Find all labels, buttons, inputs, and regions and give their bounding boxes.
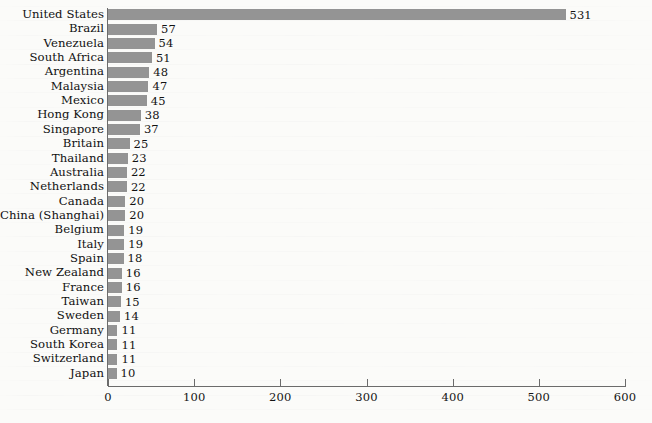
bar	[108, 210, 125, 221]
category-label: Malaysia	[0, 79, 104, 93]
bar-value-label: 16	[126, 280, 141, 294]
category-label-wrap: Australia	[0, 166, 104, 180]
x-axis-tick-label: 400	[441, 390, 464, 404]
bar	[108, 181, 127, 192]
bar-row: Spain18	[108, 252, 625, 266]
bar-value-label: 22	[131, 165, 146, 179]
bar-value-label: 57	[161, 22, 176, 36]
bar-value-label: 22	[131, 180, 146, 194]
bar-value-label: 14	[124, 309, 139, 323]
bar-value-label: 37	[144, 122, 159, 136]
bar-row: Hong Kong38	[108, 108, 625, 122]
category-label-wrap: China (Shanghai)	[0, 209, 104, 223]
bar	[108, 368, 117, 379]
bar-value-label: 20	[129, 208, 144, 222]
bar	[108, 311, 120, 322]
category-label-wrap: Canada	[0, 195, 104, 209]
bar-value-label: 11	[121, 338, 136, 352]
bar	[108, 24, 157, 35]
bar	[108, 296, 121, 307]
category-label-wrap: Argentina	[0, 65, 104, 79]
bar-value-label: 15	[125, 295, 140, 309]
bar-row: Sweden14	[108, 309, 625, 323]
bar	[108, 268, 122, 279]
category-label: South Africa	[0, 50, 104, 64]
category-label: Japan	[0, 366, 104, 380]
bar-value-label: 19	[128, 237, 143, 251]
x-axis-tick-label: 500	[528, 390, 551, 404]
bar-value-label: 38	[145, 108, 160, 122]
bar-row: Mexico45	[108, 94, 625, 108]
bar	[108, 124, 140, 135]
bar	[108, 81, 148, 92]
category-label-wrap: New Zealand	[0, 266, 104, 280]
bar-value-label: 47	[152, 79, 167, 93]
bar-chart: United States531Brazil57Venezuela54South…	[0, 0, 652, 423]
x-axis-tick-mark	[453, 379, 454, 387]
category-label: New Zealand	[0, 265, 104, 279]
bar-value-label: 25	[134, 137, 149, 151]
bar-row: Italy19	[108, 238, 625, 252]
category-label-wrap: Malaysia	[0, 80, 104, 94]
bar	[108, 239, 124, 250]
bar-value-label: 45	[151, 94, 166, 108]
bar-value-label: 531	[570, 8, 592, 22]
x-axis-tick-mark	[539, 379, 540, 387]
bar-row: France16	[108, 281, 625, 295]
bar-row: Taiwan15	[108, 295, 625, 309]
x-axis-tick-mark	[367, 379, 368, 387]
category-label-wrap: Thailand	[0, 152, 104, 166]
category-label-wrap: Italy	[0, 238, 104, 252]
x-axis-tick-label: 100	[183, 390, 206, 404]
category-label-wrap: Japan	[0, 367, 104, 381]
bar-row: Thailand23	[108, 152, 625, 166]
bar-row: Germany11	[108, 324, 625, 338]
category-label: Netherlands	[0, 179, 104, 193]
category-label-wrap: Venezuela	[0, 37, 104, 51]
category-label: Argentina	[0, 64, 104, 78]
bar	[108, 138, 130, 149]
bar	[108, 339, 117, 350]
category-label: Switzerland	[0, 351, 104, 365]
category-label-wrap: Singapore	[0, 123, 104, 137]
bar-row: Belgium19	[108, 223, 625, 237]
bar-row: Netherlands22	[108, 180, 625, 194]
bar-value-label: 11	[121, 323, 136, 337]
bar-row: Singapore37	[108, 123, 625, 137]
x-axis-tick-label: 600	[614, 390, 637, 404]
bar-row: Malaysia47	[108, 80, 625, 94]
category-label-wrap: Sweden	[0, 309, 104, 323]
category-label-wrap: Hong Kong	[0, 108, 104, 122]
category-label-wrap: Taiwan	[0, 295, 104, 309]
bar	[108, 38, 155, 49]
bar-value-label: 11	[121, 352, 136, 366]
bar-value-label: 23	[132, 151, 147, 165]
category-label-wrap: Britain	[0, 137, 104, 151]
category-label: Belgium	[0, 222, 104, 236]
category-label-wrap: Germany	[0, 324, 104, 338]
x-axis-tick-label: 200	[269, 390, 292, 404]
category-label: Singapore	[0, 122, 104, 136]
category-label: South Korea	[0, 337, 104, 351]
bar	[108, 153, 128, 164]
category-label: Germany	[0, 323, 104, 337]
bar-value-label: 48	[153, 65, 168, 79]
bar-row: Venezuela54	[108, 37, 625, 51]
bar-row: China (Shanghai)20	[108, 209, 625, 223]
bar-row: Argentina48	[108, 65, 625, 79]
category-label: Taiwan	[0, 294, 104, 308]
category-label-wrap: Mexico	[0, 94, 104, 108]
category-label-wrap: France	[0, 281, 104, 295]
x-axis-tick-mark	[108, 379, 109, 387]
bar-row: United States531	[108, 8, 625, 22]
bar	[108, 52, 152, 63]
bar	[108, 110, 141, 121]
bar-value-label: 19	[128, 223, 143, 237]
x-axis-tick-mark	[280, 379, 281, 387]
bar-row: Switzerland11	[108, 352, 625, 366]
category-label: China (Shanghai)	[0, 208, 104, 222]
category-label-wrap: South Korea	[0, 338, 104, 352]
bar	[108, 167, 127, 178]
bar	[108, 282, 122, 293]
category-label: Spain	[0, 251, 104, 265]
